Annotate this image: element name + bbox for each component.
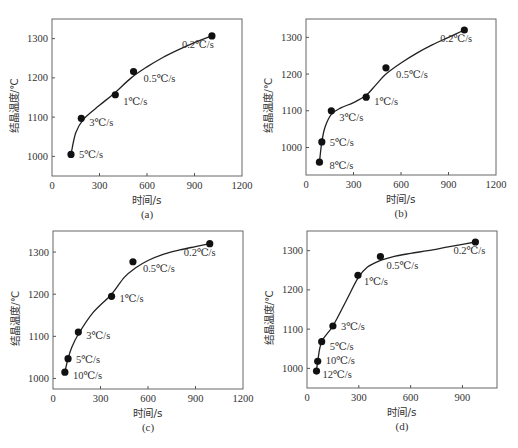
cooling-rate-label: 12℃/s: [323, 369, 352, 380]
chart-d-canvas: 0300600900100011001200130012℃/s10℃/s5℃/s…: [0, 0, 518, 448]
data-point: [318, 338, 325, 345]
data-point: [313, 368, 320, 375]
x-tick-label: 600: [403, 392, 419, 403]
cooling-rate-label: 0.2℃/s: [453, 245, 485, 256]
x-tick-label: 300: [351, 392, 367, 403]
data-point: [329, 322, 336, 329]
y-tick-label: 1000: [282, 363, 303, 374]
x-tick-label: 900: [455, 392, 471, 403]
cooling-rate-label: 1℃/s: [364, 276, 388, 287]
subplot-d: 0300600900100011001200130012℃/s10℃/s5℃/s…: [0, 0, 518, 448]
x-axis-label: 时间/s: [387, 406, 416, 418]
subplot-caption: (d): [396, 420, 409, 433]
y-tick-label: 1300: [282, 245, 303, 256]
y-tick-label: 1100: [282, 324, 303, 335]
y-axis-label: 结晶温度/℃: [263, 290, 275, 345]
data-point: [314, 358, 321, 365]
cooling-rate-label: 3℃/s: [341, 321, 365, 332]
x-tick-label: 0: [304, 392, 309, 403]
y-tick-label: 1200: [282, 284, 303, 295]
data-point: [377, 253, 384, 260]
cooling-rate-label: 5℃/s: [330, 341, 354, 352]
data-point: [354, 272, 361, 279]
cooling-rate-label: 10℃/s: [326, 355, 355, 366]
cooling-rate-label: 0.5℃/s: [386, 260, 418, 271]
